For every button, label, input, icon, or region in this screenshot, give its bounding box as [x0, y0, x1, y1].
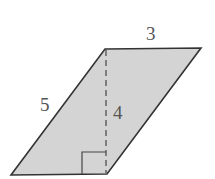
- left-side-label: 5: [40, 94, 50, 115]
- parallelogram-diagram: 3 5 4: [0, 0, 215, 179]
- height-label: 4: [113, 102, 123, 123]
- top-side-label: 3: [146, 23, 156, 44]
